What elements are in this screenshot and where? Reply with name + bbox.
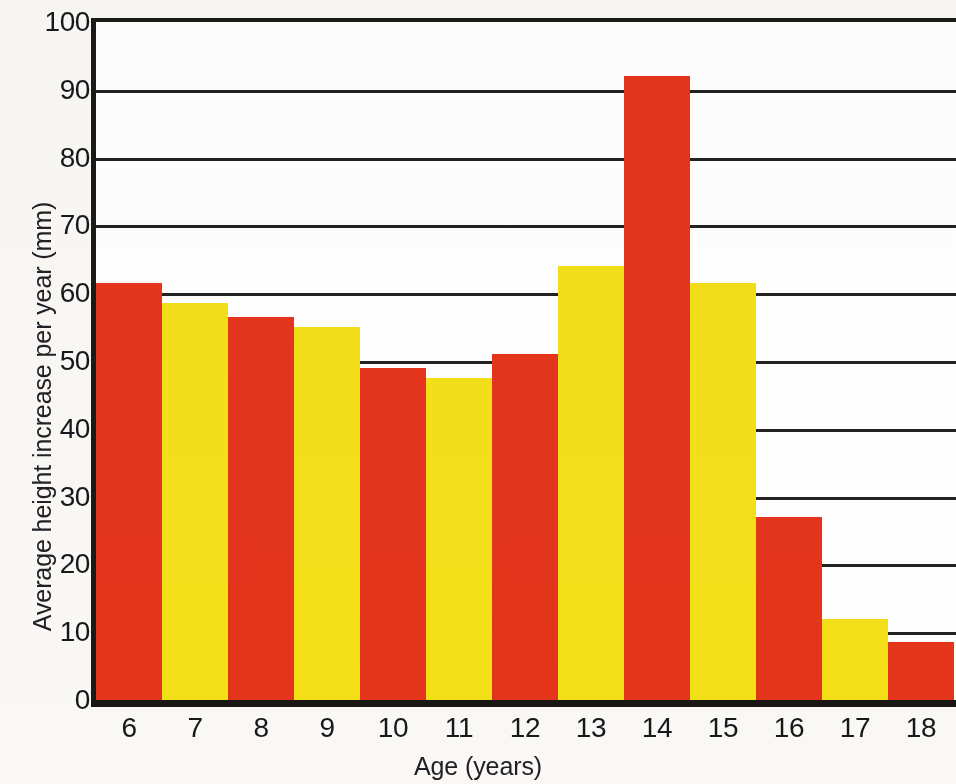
bar <box>96 283 162 700</box>
bar <box>822 619 888 700</box>
bar <box>558 266 624 700</box>
bar <box>426 378 492 700</box>
x-axis-tick-label: 17 <box>822 712 888 744</box>
bar <box>888 642 954 700</box>
y-axis-tick-labels: 0102030405060708090100 <box>0 0 96 784</box>
y-axis-tick-label: 100 <box>8 8 96 36</box>
x-axis-tick-label: 10 <box>360 712 426 744</box>
x-axis-tick-label: 14 <box>624 712 690 744</box>
bar <box>756 517 822 700</box>
x-axis-tick-label: 15 <box>690 712 756 744</box>
y-axis-tick-label: 0 <box>8 686 96 714</box>
y-axis-tick-label: 60 <box>8 279 96 307</box>
y-axis-tick-label: 20 <box>8 550 96 578</box>
bar <box>162 303 228 700</box>
plot-area <box>96 22 956 700</box>
x-axis-tick-label: 11 <box>426 712 492 744</box>
y-axis-tick-label: 70 <box>8 211 96 239</box>
x-axis-tick-label: 18 <box>888 712 954 744</box>
x-axis-line <box>91 700 956 707</box>
y-axis-tick-label: 90 <box>8 76 96 104</box>
x-axis-tick-label: 9 <box>294 712 360 744</box>
bar <box>624 76 690 700</box>
bar <box>492 354 558 700</box>
x-axis-tick-label: 7 <box>162 712 228 744</box>
x-axis-tick-label: 12 <box>492 712 558 744</box>
bars-layer <box>96 22 956 700</box>
x-axis-tick-label: 8 <box>228 712 294 744</box>
x-axis-tick-label: 6 <box>96 712 162 744</box>
y-axis-tick-label: 80 <box>8 144 96 172</box>
y-axis-tick-label: 30 <box>8 483 96 511</box>
bar <box>228 317 294 700</box>
x-axis-tick-label: 16 <box>756 712 822 744</box>
bar <box>690 283 756 700</box>
y-axis-tick-label: 50 <box>8 347 96 375</box>
bar <box>360 368 426 700</box>
y-axis-tick-label: 40 <box>8 415 96 443</box>
bar <box>294 327 360 700</box>
x-axis-tick-label: 13 <box>558 712 624 744</box>
y-axis-tick-label: 10 <box>8 618 96 646</box>
x-axis-title: Age (years) <box>0 752 956 781</box>
bar-chart: Average height increase per year (mm) 01… <box>0 0 956 784</box>
